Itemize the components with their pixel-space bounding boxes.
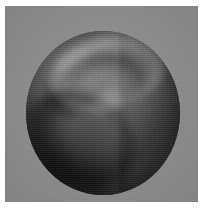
image-plate bbox=[5, 6, 198, 202]
sphere-edge-feather bbox=[26, 31, 180, 195]
sphere-figure bbox=[26, 31, 180, 195]
figure-page: Grayscale image of an illuminated spheri… bbox=[0, 0, 205, 214]
figure-alt-text: Grayscale image of an illuminated spheri… bbox=[0, 0, 1, 1]
